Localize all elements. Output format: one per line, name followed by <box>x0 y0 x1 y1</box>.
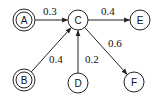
nodes-group: ACEBDF <box>13 9 150 93</box>
edge-b-c <box>31 28 71 72</box>
node-d: D <box>68 73 88 93</box>
node-label: D <box>74 78 81 89</box>
graph-diagram: 0.30.40.40.20.6 ACEBDF <box>0 0 162 100</box>
edge-weight-label: 0.3 <box>43 5 57 17</box>
node-c: C <box>68 10 88 30</box>
node-a: A <box>13 9 35 31</box>
node-label: C <box>74 15 81 26</box>
edge-weight-label: 0.4 <box>49 53 63 65</box>
node-f: F <box>124 72 144 92</box>
edge-weight-label: 0.6 <box>108 37 122 49</box>
node-label: E <box>137 15 144 26</box>
edge-c-f <box>85 27 127 74</box>
edge-weight-label: 0.4 <box>101 5 115 17</box>
node-label: A <box>21 15 28 26</box>
node-b: B <box>13 69 35 91</box>
node-label: F <box>131 77 137 88</box>
edge-weight-label: 0.2 <box>85 53 99 65</box>
node-label: B <box>21 75 28 86</box>
node-e: E <box>130 10 150 30</box>
